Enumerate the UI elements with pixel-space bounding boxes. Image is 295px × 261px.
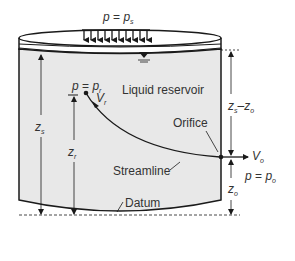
reservoir-diagram: p = ps zs zr p = pr Vr Liquid reservoir … xyxy=(0,0,295,261)
surface-pressure-label: p = ps xyxy=(102,10,134,25)
streamline-label: Streamline xyxy=(113,164,171,178)
liquid-reservoir-label: Liquid reservoir xyxy=(122,83,204,97)
orifice-label: Orifice xyxy=(173,116,208,130)
datum-label: Datum xyxy=(125,196,160,210)
liquid-body xyxy=(19,49,221,211)
outlet-velocity-label: Vo xyxy=(252,149,264,164)
outlet-pressure-label: p = po xyxy=(244,169,276,184)
zs-minus-zo-label: zs–zo xyxy=(227,99,254,114)
tank-rim-top xyxy=(19,30,221,46)
